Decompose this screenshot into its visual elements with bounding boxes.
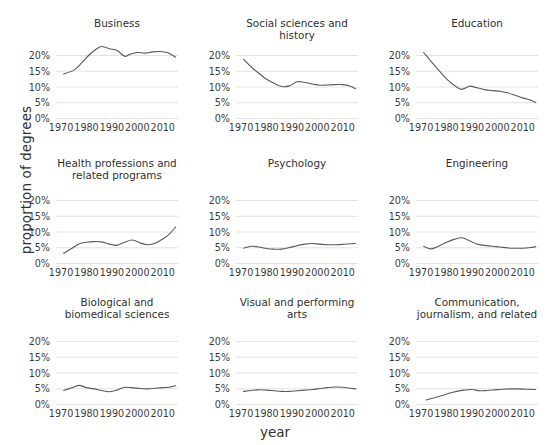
gridlines [416,342,538,405]
x-tick-label: 2000 [305,408,329,419]
x-tick-label: 1980 [74,408,98,419]
panel-title: Visual and performing arts [236,296,358,320]
small-multiples-chart: proportion of degrees year Business0%5%1… [0,0,550,445]
y-tick-label: 0% [2,258,50,269]
panel-title: Communication, journalism, and related [416,296,538,320]
y-tick-label: 10% [362,367,410,378]
panel-title: Social sciences and history [236,17,358,41]
x-tick-label: 2010 [331,267,355,278]
gridlines [236,201,358,264]
x-tick-label: 1970 [49,408,73,419]
y-tick-label: 20% [182,195,230,206]
x-tick-label: 1980 [434,408,458,419]
x-tick-label: 1980 [254,267,278,278]
x-tick-label: 1980 [434,267,458,278]
y-tick-label: 0% [182,399,230,410]
panel-title: Biological and biomedical sciences [56,296,178,320]
x-tick-label: 1970 [49,122,73,133]
x-tick-label: 1990 [280,408,304,419]
series-line [244,59,356,88]
y-tick-label: 20% [182,50,230,61]
y-tick-label: 10% [2,226,50,237]
panel-title: Business [56,17,178,29]
y-tick-label: 15% [362,351,410,362]
y-tick-label: 10% [2,81,50,92]
plot-area [56,44,178,118]
x-tick-label: 2000 [305,267,329,278]
x-tick-label: 1980 [434,122,458,133]
panel-psychology: Psychology0%5%10%15%20%19701980199020002… [182,157,358,285]
y-tick-label: 5% [362,383,410,394]
y-tick-label: 5% [362,97,410,108]
plot-area [236,330,358,404]
x-tick-label: 2000 [125,122,149,133]
y-tick-label: 5% [2,383,50,394]
gridlines [56,342,178,405]
panel-business: Business0%5%10%15%20%1970198019902000201… [2,17,178,140]
series-line [64,227,176,253]
x-tick-label: 2010 [151,408,175,419]
x-tick-label: 1970 [409,408,433,419]
plot-area [416,44,538,118]
x-tick-label: 2010 [151,267,175,278]
plot-area [56,189,178,263]
panel-social-sciences-and-history: Social sciences and history0%5%10%15%20%… [182,17,358,140]
gridlines [416,201,538,264]
x-tick-label: 2000 [305,122,329,133]
series-line [64,47,176,74]
gridlines [56,56,178,119]
x-tick-label: 1970 [229,267,253,278]
y-tick-label: 20% [182,336,230,347]
x-tick-label: 2010 [511,267,535,278]
y-tick-label: 15% [2,210,50,221]
y-tick-label: 5% [182,383,230,394]
series-line [244,243,356,249]
series-line [424,238,536,249]
y-tick-label: 0% [2,113,50,124]
y-tick-label: 5% [182,242,230,253]
panel-title: Engineering [416,157,538,169]
x-tick-label: 1990 [100,122,124,133]
gridlines [236,342,358,405]
y-tick-label: 20% [362,195,410,206]
y-tick-label: 5% [2,97,50,108]
x-tick-label: 1970 [409,122,433,133]
x-tick-label: 1980 [74,267,98,278]
x-tick-label: 1970 [49,267,73,278]
y-tick-label: 15% [362,210,410,221]
panel-communication-journalism-and-related: Communication, journalism, and related0%… [362,296,538,426]
y-tick-label: 20% [362,336,410,347]
y-tick-label: 0% [182,258,230,269]
y-tick-label: 15% [182,210,230,221]
y-tick-label: 15% [2,351,50,362]
plot-area [416,330,538,404]
x-tick-label: 1990 [280,267,304,278]
x-tick-label: 2000 [125,408,149,419]
gridlines [56,201,178,264]
y-tick-label: 10% [362,226,410,237]
series-line [424,53,536,103]
y-tick-label: 20% [2,50,50,61]
gridlines [236,56,358,119]
series-line [426,389,535,400]
y-tick-label: 10% [362,81,410,92]
panel-biological-and-biomedical-sciences: Biological and biomedical sciences0%5%10… [2,296,178,426]
x-tick-label: 1980 [254,122,278,133]
x-tick-label: 1980 [74,122,98,133]
panel-title: Health professions and related programs [56,157,178,181]
x-tick-label: 1990 [460,122,484,133]
plot-area [236,189,358,263]
panel-health-professions-and-related-programs: Health professions and related programs0… [2,157,178,285]
x-tick-label: 1970 [409,267,433,278]
y-tick-label: 10% [182,367,230,378]
panel-title: Education [416,17,538,29]
plot-area [236,44,358,118]
x-tick-label: 1990 [460,408,484,419]
x-tick-label: 2000 [485,408,509,419]
y-tick-label: 15% [182,351,230,362]
x-tick-label: 1990 [460,267,484,278]
y-tick-label: 15% [2,65,50,76]
x-tick-label: 2000 [125,267,149,278]
y-tick-label: 5% [182,97,230,108]
x-tick-label: 2010 [511,408,535,419]
